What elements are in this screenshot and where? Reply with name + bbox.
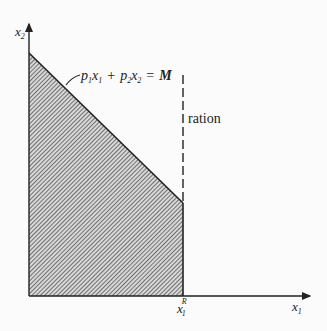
- ration-label: ration: [188, 111, 221, 126]
- budget-line-label: p1x1+p2x2=M: [80, 68, 172, 85]
- budget-set-diagram: x2 x1 p1x1+p2x2=M ration x1R: [0, 0, 327, 331]
- ration-tick-label: x1R: [176, 297, 187, 318]
- feasible-region: [29, 53, 183, 296]
- budget-label-pointer: [66, 75, 80, 85]
- y-axis-label: x2: [14, 24, 25, 41]
- x-axis-label: x1: [291, 299, 302, 316]
